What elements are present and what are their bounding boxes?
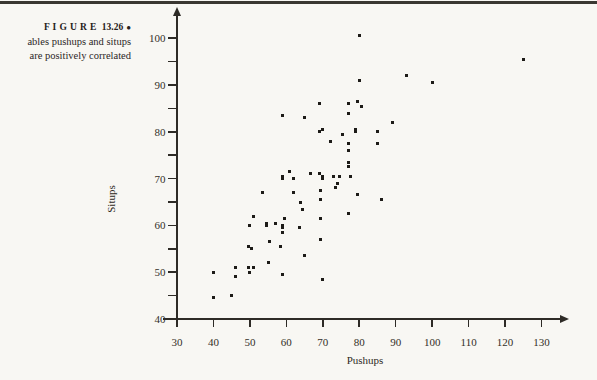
- y-tick-label: 70: [138, 173, 166, 185]
- x-tick-label: 120: [491, 336, 519, 348]
- data-point: [347, 142, 350, 145]
- y-tick: [168, 108, 177, 110]
- caption-line-3: are positively correlated: [0, 49, 131, 63]
- y-tick: [168, 295, 177, 297]
- y-axis-title: Situps: [105, 158, 117, 240]
- data-point: [292, 177, 295, 180]
- data-point: [247, 266, 250, 269]
- caption-line-2: ables pushups and situps: [0, 35, 131, 49]
- data-point: [281, 231, 284, 234]
- y-tick: [168, 84, 177, 86]
- x-tick-label: 130: [528, 336, 556, 348]
- figure-number: 13.26: [97, 22, 123, 32]
- data-point: [336, 182, 339, 185]
- y-tick: [168, 61, 177, 63]
- y-tick: [168, 271, 177, 273]
- x-tick: [213, 319, 215, 327]
- data-point: [230, 294, 233, 297]
- x-tick: [431, 319, 433, 327]
- y-tick: [168, 201, 177, 203]
- data-point: [212, 271, 215, 274]
- data-point: [265, 224, 268, 227]
- data-point: [298, 226, 301, 229]
- y-tick-label: 60: [138, 219, 166, 231]
- data-point: [349, 175, 352, 178]
- data-point: [356, 100, 359, 103]
- x-tick-label: 110: [455, 336, 483, 348]
- x-axis-arrow-icon: [560, 315, 569, 323]
- data-point: [267, 261, 270, 264]
- x-tick: [395, 319, 397, 327]
- data-point: [354, 130, 357, 133]
- y-tick: [168, 154, 177, 156]
- y-tick-label: 90: [138, 79, 166, 91]
- data-point: [376, 142, 379, 145]
- y-tick-label: 40: [138, 313, 166, 325]
- data-point: [319, 217, 322, 220]
- data-point: [288, 170, 291, 173]
- x-tick-label: 90: [382, 336, 410, 348]
- data-point: [360, 105, 363, 108]
- x-axis-line: [163, 318, 561, 320]
- data-point: [268, 240, 271, 243]
- y-tick-label: 100: [138, 32, 166, 44]
- data-point: [347, 149, 350, 152]
- x-tick-label: 70: [309, 336, 337, 348]
- data-point: [292, 191, 295, 194]
- data-point: [301, 208, 304, 211]
- data-point: [248, 224, 251, 227]
- data-point: [319, 198, 322, 201]
- x-tick: [249, 319, 251, 327]
- data-point: [334, 186, 337, 189]
- y-tick: [168, 225, 177, 227]
- data-point: [248, 271, 251, 274]
- data-point: [321, 177, 324, 180]
- data-point: [321, 128, 324, 131]
- data-point: [347, 165, 350, 168]
- data-point: [318, 130, 321, 133]
- figure-bullet-icon: ●: [123, 23, 131, 32]
- top-rule: [0, 1, 597, 4]
- data-point: [341, 133, 344, 136]
- x-tick-label: 30: [163, 336, 191, 348]
- y-axis-arrow-icon: [173, 7, 181, 16]
- y-tick-label: 50: [138, 266, 166, 278]
- data-point: [347, 102, 350, 105]
- data-point: [347, 212, 350, 215]
- x-tick-label: 40: [199, 336, 227, 348]
- x-tick: [322, 319, 324, 327]
- data-point: [279, 245, 282, 248]
- data-point: [283, 217, 286, 220]
- data-point: [319, 238, 322, 241]
- data-point: [318, 102, 321, 105]
- data-point: [376, 130, 379, 133]
- data-point: [309, 172, 312, 175]
- x-tick-label: 50: [236, 336, 264, 348]
- data-point: [358, 34, 361, 37]
- data-point: [356, 193, 359, 196]
- x-tick: [176, 319, 178, 327]
- book-page: F I G U R E13.26● ables pushups and situ…: [0, 0, 597, 380]
- data-point: [281, 177, 284, 180]
- y-tick-label: 80: [138, 126, 166, 138]
- data-point: [332, 175, 335, 178]
- data-point: [303, 254, 306, 257]
- data-point: [318, 172, 321, 175]
- x-tick-label: 80: [345, 336, 373, 348]
- data-point: [281, 226, 284, 229]
- data-point: [380, 198, 383, 201]
- figure-label: F I G U R E: [44, 22, 97, 32]
- x-tick: [504, 319, 506, 327]
- data-point: [303, 116, 306, 119]
- x-tick: [468, 319, 470, 327]
- x-tick-label: 60: [272, 336, 300, 348]
- data-point: [281, 273, 284, 276]
- data-point: [347, 161, 350, 164]
- y-tick: [168, 178, 177, 180]
- data-point: [247, 245, 250, 248]
- data-point: [358, 79, 361, 82]
- x-tick: [358, 319, 360, 327]
- data-point: [347, 112, 350, 115]
- data-point: [321, 278, 324, 281]
- data-point: [212, 296, 215, 299]
